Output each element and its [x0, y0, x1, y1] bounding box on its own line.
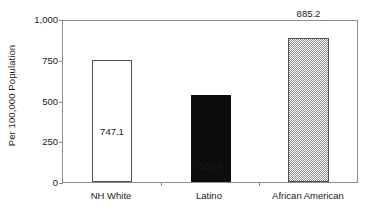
bars-layer: 747.1 535.4 885.2	[63, 21, 357, 182]
category-label-nh-white: NH White	[62, 190, 160, 202]
category-label-latino: Latino	[160, 190, 258, 202]
y-tick-label-0: 0	[14, 178, 58, 188]
bar-nh-white[interactable]	[92, 60, 132, 182]
y-tick-label-1000: 1,000	[14, 15, 58, 25]
value-label-latino: 535.4	[181, 160, 241, 171]
y-tick-label-250: 250	[14, 137, 58, 147]
value-label-african-american: 885.2	[278, 8, 339, 19]
x-axis-category-labels: NH White Latino African American	[62, 190, 358, 210]
y-axis-tick-labels: 1,000 750 500 250 0	[10, 0, 58, 216]
x-separator-tick-2	[259, 182, 260, 186]
x-separator-tick-1	[161, 182, 162, 186]
category-label-african-american: African American	[258, 190, 358, 202]
bar-african-american[interactable]	[288, 38, 329, 183]
plot-area: 747.1 535.4 885.2	[62, 20, 358, 183]
bar-chart-figure: Per 100,000 Population 1,000 750 500 250…	[0, 0, 374, 216]
y-tick-label-500: 500	[14, 97, 58, 107]
y-tick-label-750: 750	[14, 56, 58, 66]
y-tick-mark-0	[59, 183, 63, 184]
value-label-nh-white: 747.1	[82, 126, 142, 137]
